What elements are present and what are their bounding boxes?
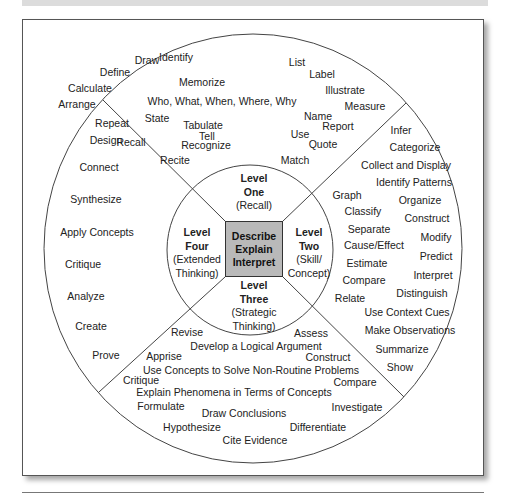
level-one-word: Quote bbox=[309, 139, 338, 150]
level-one-word: Report bbox=[322, 121, 354, 132]
level-one-word: Who, What, When, Where, Why bbox=[148, 96, 297, 107]
level-four-word: Synthesize bbox=[70, 194, 121, 205]
level-title: Level bbox=[173, 226, 221, 240]
level-subtitle: (Extended bbox=[173, 253, 221, 267]
level-two-word: Categorize bbox=[390, 142, 441, 153]
level-title: Level bbox=[232, 279, 277, 293]
level-four-word: Design bbox=[90, 135, 123, 146]
level-two-word: Collect and Display bbox=[361, 160, 451, 171]
level-four-word: Analyze bbox=[67, 291, 104, 302]
level-three-word: Formulate bbox=[137, 401, 184, 412]
level-one-word: Recite bbox=[160, 155, 190, 166]
level-three-label: Level Three (Strategic Thinking) bbox=[232, 279, 277, 333]
level-two-word: Compare bbox=[342, 275, 385, 286]
level-one-word: Tabulate bbox=[183, 120, 223, 131]
level-title: One bbox=[236, 186, 272, 200]
level-subtitle: (Skill/ bbox=[288, 253, 331, 267]
level-subtitle: Concept) bbox=[288, 267, 331, 281]
level-one-word: Arrange bbox=[58, 99, 95, 110]
level-two-word: Summarize bbox=[375, 344, 428, 355]
level-two-word: Cause/Effect bbox=[344, 240, 404, 251]
level-one-word: Label bbox=[309, 69, 335, 80]
level-two-word: Identify Patterns bbox=[376, 177, 452, 188]
level-three-word: Develop a Logical Argument bbox=[190, 341, 321, 352]
level-two-word: Separate bbox=[348, 224, 391, 235]
level-three-word: Use Concepts to Solve Non-Routine Proble… bbox=[143, 365, 359, 376]
level-three-word: Hypothesize bbox=[163, 422, 221, 433]
level-one-word: Identify bbox=[159, 52, 193, 63]
center-line: Interpret bbox=[233, 256, 276, 269]
level-two-word: Use Context Cues bbox=[364, 307, 449, 318]
center-line: Describe bbox=[232, 230, 276, 243]
level-title: Three bbox=[232, 293, 277, 307]
level-title: Level bbox=[236, 172, 272, 186]
level-subtitle: (Strategic bbox=[232, 306, 277, 320]
level-one-word: Draw bbox=[135, 55, 160, 66]
level-four-word: Critique bbox=[65, 259, 101, 270]
level-three-word: Assess bbox=[294, 328, 328, 339]
level-four-word: Prove bbox=[92, 350, 119, 361]
level-two-word: Relate bbox=[335, 293, 365, 304]
level-one-word: Recognize bbox=[181, 140, 231, 151]
level-two-label: Level Two (Skill/ Concept) bbox=[288, 226, 331, 280]
level-three-word: Apprise bbox=[146, 351, 182, 362]
level-two-word: Predict bbox=[420, 251, 453, 262]
level-one-word: Define bbox=[100, 67, 130, 78]
level-one-word: Measure bbox=[345, 101, 386, 112]
level-one-label: Level One (Recall) bbox=[236, 172, 272, 213]
level-three-word: Explain Phenomena in Terms of Concepts bbox=[136, 387, 331, 398]
level-four-word: Create bbox=[75, 321, 107, 332]
level-two-word: Construct bbox=[405, 213, 450, 224]
level-three-word: Draw Conclusions bbox=[202, 408, 287, 419]
level-one-word: Match bbox=[281, 155, 310, 166]
level-four-label: Level Four (Extended Thinking) bbox=[173, 226, 221, 280]
level-one-word: Use bbox=[291, 129, 310, 140]
level-one-word: Illustrate bbox=[325, 85, 365, 96]
level-subtitle: Thinking) bbox=[173, 267, 221, 281]
level-four-word: Connect bbox=[79, 162, 118, 173]
level-one-word: State bbox=[145, 113, 170, 124]
level-title: Four bbox=[173, 240, 221, 254]
level-three-word: Cite Evidence bbox=[223, 435, 288, 446]
level-three-word: Compare bbox=[333, 377, 376, 388]
level-one-word: Repeat bbox=[95, 118, 129, 129]
center-box: Describe Explain Interpret bbox=[225, 221, 283, 277]
level-four-word: Apply Concepts bbox=[60, 227, 134, 238]
level-one-word: Memorize bbox=[179, 77, 225, 88]
level-three-word: Differentiate bbox=[290, 422, 346, 433]
level-three-word: Investigate bbox=[332, 402, 383, 413]
level-two-word: Distinguish bbox=[396, 288, 447, 299]
level-three-word: Revise bbox=[171, 327, 203, 338]
level-two-word: Organize bbox=[399, 195, 442, 206]
level-subtitle: (Recall) bbox=[236, 199, 272, 213]
level-two-word: Classify bbox=[345, 206, 382, 217]
level-two-word: Show bbox=[387, 362, 413, 373]
level-two-word: Graph bbox=[332, 190, 361, 201]
level-two-word: Modify bbox=[421, 232, 452, 243]
level-three-word: Construct bbox=[306, 352, 351, 363]
level-subtitle: Thinking) bbox=[232, 320, 277, 334]
center-line: Explain bbox=[235, 243, 272, 256]
level-title: Level bbox=[288, 226, 331, 240]
level-two-word: Infer bbox=[390, 125, 411, 136]
level-two-word: Make Observations bbox=[365, 325, 455, 336]
level-one-word: List bbox=[289, 57, 305, 68]
level-title: Two bbox=[288, 240, 331, 254]
level-three-word: Critique bbox=[123, 375, 159, 386]
level-two-word: Interpret bbox=[413, 270, 452, 281]
level-two-word: Estimate bbox=[347, 258, 388, 269]
level-one-word: Calculate bbox=[68, 83, 112, 94]
